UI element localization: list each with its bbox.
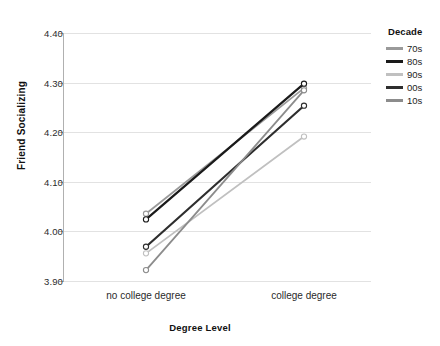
data-series-layer xyxy=(63,33,370,282)
legend-label-90s: 90s xyxy=(407,69,422,80)
legend-title: Decade xyxy=(388,26,440,37)
data-point-10s-college-degree xyxy=(301,88,306,93)
data-point-90s-college-degree xyxy=(301,134,306,139)
x-axis-title: Degree Level xyxy=(0,322,400,333)
x-tick-label-no-college-degree: no college degree xyxy=(106,290,186,301)
data-point-80s-college-degree xyxy=(301,81,306,86)
series-line-00s xyxy=(146,106,304,247)
data-point-80s-no-college-degree xyxy=(143,217,148,222)
legend-item-80s[interactable]: 80s xyxy=(386,56,440,67)
y-tick-label-440: 4.40 xyxy=(19,28,63,39)
legend-swatch-70s xyxy=(386,47,403,50)
line-chart: 4.40 4.30 4.20 4.10 4.00 3.90 Friend Soc… xyxy=(0,0,440,346)
legend-swatch-10s xyxy=(386,99,403,102)
data-point-10s-no-college-degree xyxy=(143,268,148,273)
legend-item-00s[interactable]: 00s xyxy=(386,82,440,93)
legend-label-70s: 70s xyxy=(407,43,422,54)
legend-label-80s: 80s xyxy=(407,56,422,67)
legend: Decade 70s80s90s00s10s xyxy=(386,26,440,108)
legend-swatch-00s xyxy=(386,86,403,89)
series-80s xyxy=(143,81,306,222)
y-axis-title: Friend Socializing xyxy=(16,41,27,211)
data-point-90s-no-college-degree xyxy=(143,251,148,256)
data-point-00s-college-degree xyxy=(301,103,306,108)
series-00s xyxy=(143,103,306,249)
legend-label-00s: 00s xyxy=(407,82,422,93)
y-tick-label-400: 4.00 xyxy=(19,226,63,237)
series-line-80s xyxy=(146,84,304,220)
legend-swatch-80s xyxy=(386,60,403,63)
x-tick-label-college-degree: college degree xyxy=(271,290,337,301)
series-line-10s xyxy=(146,90,304,270)
data-point-00s-no-college-degree xyxy=(143,244,148,249)
legend-item-90s[interactable]: 90s xyxy=(386,69,440,80)
legend-swatch-90s xyxy=(386,73,403,76)
legend-item-70s[interactable]: 70s xyxy=(386,43,440,54)
data-point-70s-no-college-degree xyxy=(143,211,148,216)
legend-item-10s[interactable]: 10s xyxy=(386,95,440,106)
legend-label-10s: 10s xyxy=(407,95,422,106)
y-tick-label-390: 3.90 xyxy=(19,276,63,287)
series-10s xyxy=(143,88,306,273)
